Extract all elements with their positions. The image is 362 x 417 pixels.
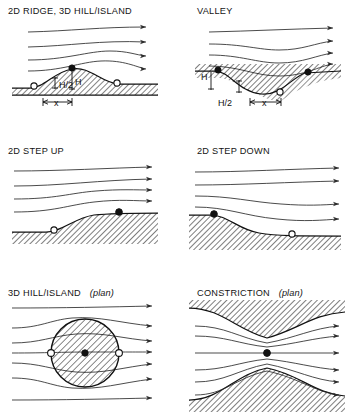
- streamline-3: [195, 196, 339, 205]
- panel-title-text: 3D HILL/ISLAND: [8, 288, 81, 298]
- streamline-1: [195, 168, 339, 172]
- streamline-arrow-5: [146, 362, 152, 367]
- panel-title-text: 2D STEP DOWN: [197, 146, 270, 156]
- panel-title-step-up: 2D STEP UP: [8, 146, 64, 156]
- diagram-step-up: [0, 160, 181, 270]
- panel-title-constriction-plan: CONSTRICTION (plan): [197, 288, 303, 298]
- streamline-4: [14, 200, 152, 212]
- marker-filled-circle-throat: [264, 350, 271, 357]
- marker-filled-circle-top: [116, 209, 123, 216]
- streamline-arrow-6: [146, 377, 152, 382]
- panel-title-plan-suffix: (plan): [279, 288, 303, 298]
- panel-constriction-plan: CONSTRICTION (plan): [181, 280, 362, 417]
- streamline-7: [12, 398, 152, 400]
- panel-title-text: CONSTRICTION: [197, 288, 270, 298]
- streamline-3: [209, 53, 333, 63]
- panel-title-step-down: 2D STEP DOWN: [197, 146, 270, 156]
- panel-title-hill-island-plan: 3D HILL/ISLAND (plan): [8, 288, 114, 298]
- panel-title-valley: VALLEY: [197, 6, 233, 16]
- panel-step-down: 2D STEP DOWN: [181, 140, 362, 270]
- streamline-2: [195, 181, 339, 185]
- panel-title-ridge-hill-island: 2D RIDGE, 3D HILL/ISLAND: [8, 6, 132, 16]
- dim-label-x: x: [54, 98, 59, 108]
- diagram-valley: H H/2 x: [181, 20, 362, 130]
- upper-bank-group: [189, 300, 345, 338]
- panel-title-text: 2D STEP UP: [8, 146, 64, 156]
- streamline-2: [14, 179, 152, 186]
- panel-valley: VALLEY: [181, 0, 362, 130]
- streamline-arrow-1: [333, 324, 339, 329]
- dim-label-h: H: [201, 72, 208, 82]
- panel-ridge-hill-island: 2D RIDGE, 3D HILL/ISLAND: [0, 0, 181, 130]
- terrain-group: [12, 69, 158, 95]
- streamline-group: [14, 165, 152, 212]
- terrain-group: [12, 213, 158, 244]
- lower-bank-group: [189, 368, 345, 412]
- panel-title-plan-suffix: (plan): [90, 288, 114, 298]
- streamline-1: [12, 306, 152, 308]
- streamline-2: [28, 42, 146, 47]
- streamline-3: [14, 190, 152, 199]
- streamline-group: [28, 25, 146, 72]
- panel-step-up: 2D STEP UP: [0, 140, 181, 270]
- dim-label-h-half: H/2: [218, 98, 232, 108]
- streamline-arrow-5: [333, 380, 339, 385]
- panel-title-text: 2D RIDGE, 3D HILL/ISLAND: [8, 6, 132, 16]
- diagram-hill-island-plan: [0, 300, 181, 415]
- dim-label-x: x: [262, 98, 267, 108]
- panel-title-text: VALLEY: [197, 6, 233, 16]
- marker-open-circle-toe: [51, 227, 57, 233]
- upper-bank-hatch: [189, 300, 345, 338]
- marker-filled-circle-downwind-rim: [305, 69, 311, 75]
- streamline-arrow-4: [333, 368, 339, 373]
- streamline-arrow-4: [140, 67, 146, 72]
- streamline-arrow-3: [146, 339, 152, 344]
- diagram-ridge-hill-island: H/2 H x: [0, 20, 181, 130]
- marker-open-circle-right-edge: [116, 350, 123, 357]
- streamline-arrow-2: [327, 39, 333, 44]
- marker-open-circle-downwind: [114, 80, 120, 86]
- streamline-arrow-2: [146, 324, 152, 329]
- marker-open-circle-valley-floor: [277, 89, 283, 95]
- terrain-hatch-fill: [12, 69, 158, 95]
- marker-open-circle-base: [289, 231, 295, 237]
- streamline-arrow-3: [327, 51, 333, 56]
- topography-flow-figure: 2D RIDGE, 3D HILL/ISLAND: [0, 0, 362, 417]
- dim-label-h-half: H/2: [59, 80, 73, 90]
- streamline-2: [209, 41, 333, 50]
- marker-filled-circle-centre: [82, 350, 88, 356]
- marker-open-circle-upwind: [31, 83, 37, 89]
- panel-hill-island-plan: 3D HILL/ISLAND (plan): [0, 280, 181, 417]
- diagram-step-down: [181, 160, 362, 270]
- streamline-3: [28, 51, 146, 60]
- streamline-arrow-2: [333, 334, 339, 339]
- dim-label-h: H: [75, 77, 82, 87]
- streamline-1: [28, 27, 146, 32]
- marker-open-circle-left-edge: [48, 350, 55, 357]
- streamline-1: [14, 167, 152, 171]
- streamline-4: [28, 61, 146, 71]
- marker-filled-circle-upwind-rim: [215, 67, 221, 73]
- streamline-arrow-3: [140, 54, 146, 59]
- streamline-1: [209, 28, 333, 32]
- marker-filled-circle-brink: [211, 211, 218, 218]
- diagram-constriction-plan: [181, 300, 362, 415]
